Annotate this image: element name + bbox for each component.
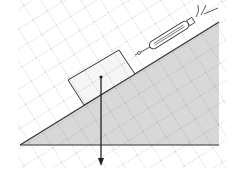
inclined-plane-diagram <box>0 0 234 189</box>
